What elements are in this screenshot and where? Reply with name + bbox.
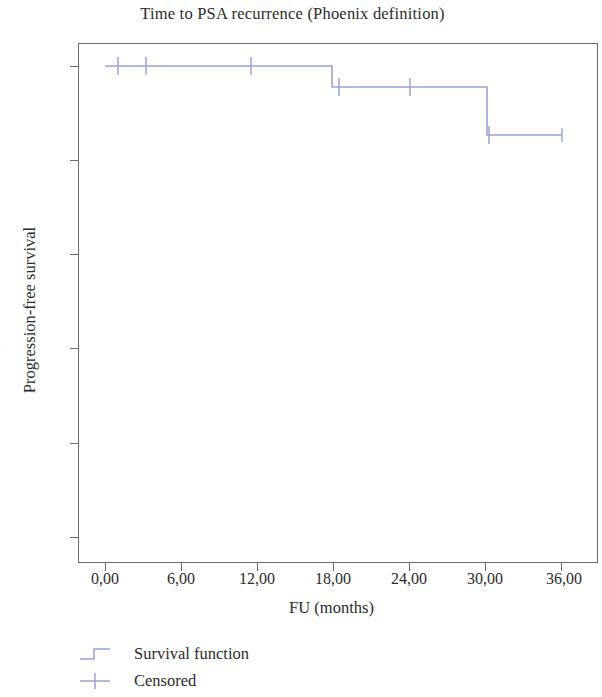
x-tick-label-30: 30,00	[445, 570, 525, 588]
x-axis-label: FU (months)	[78, 598, 585, 618]
chart-title: Time to PSA recurrence (Phoenix definiti…	[0, 4, 585, 24]
legend-label-survival-function: Survival function	[134, 644, 249, 664]
legend-label-censored: Censored	[134, 671, 196, 691]
x-tick-label-12: 12,00	[217, 570, 297, 588]
y-tick-mark-0-8	[70, 160, 78, 161]
y-tick-mark-1-0	[70, 66, 78, 67]
censored-markers	[118, 57, 489, 144]
y-tick-mark-0-4	[70, 348, 78, 349]
chart-legend: Survival function Censored	[78, 640, 378, 694]
x-tick-label-36: 36,00	[524, 570, 602, 588]
x-tick-label-18: 18,00	[293, 570, 373, 588]
legend-item-survival-function: Survival function	[78, 640, 378, 667]
x-tick-label-0: 0,00	[65, 570, 145, 588]
survival-curve-svg	[78, 43, 585, 563]
y-tick-mark-0-0	[70, 537, 78, 538]
y-tick-mark-0-6	[70, 254, 78, 255]
x-tick-label-24: 24,00	[369, 570, 449, 588]
y-tick-mark-0-2	[70, 443, 78, 444]
survival-function-line	[105, 66, 562, 135]
x-tick-label-6: 6,00	[141, 570, 221, 588]
step-line-icon	[78, 643, 124, 665]
plot-area	[78, 43, 585, 563]
plus-tick-icon	[78, 670, 124, 692]
y-axis-label: Progression-free survival	[20, 110, 40, 510]
legend-item-censored: Censored	[78, 667, 378, 694]
